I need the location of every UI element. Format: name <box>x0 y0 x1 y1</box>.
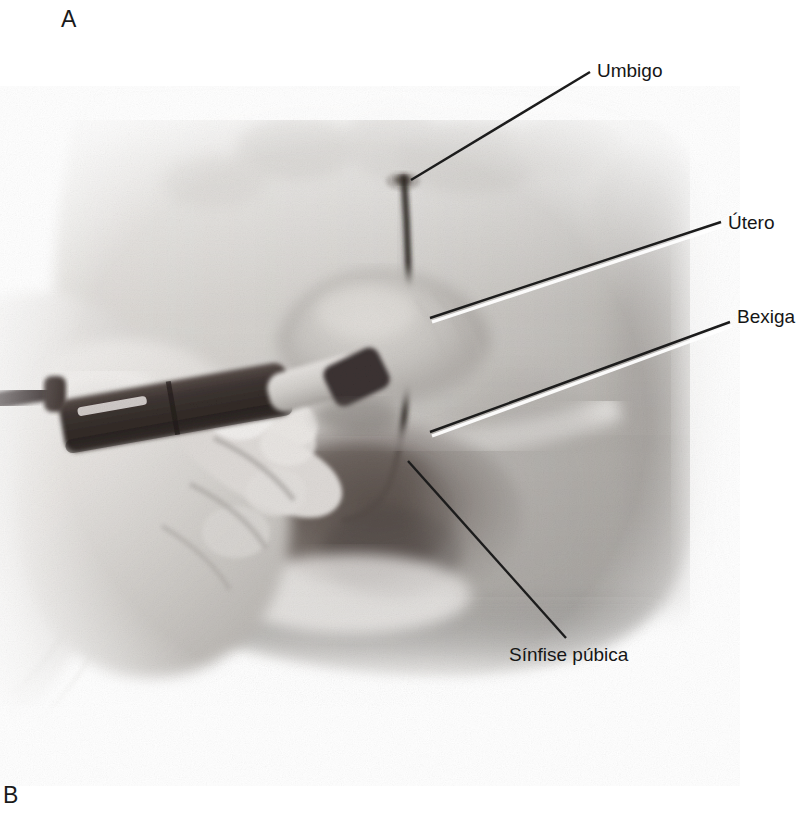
annotation-label-umbigo: Umbigo <box>597 61 662 80</box>
annotation-label-bexiga: Bexiga <box>737 307 795 326</box>
panel-a-photograph <box>0 86 740 786</box>
photograph-svg <box>0 86 740 786</box>
annotation-label-sinfise-pubica: Sínfise púbica <box>509 645 628 664</box>
photo-vignette <box>0 86 740 786</box>
figure-page: A <box>0 0 803 814</box>
panel-b-letter: B <box>3 784 19 807</box>
annotation-label-utero: Útero <box>728 213 774 232</box>
panel-a-letter: A <box>61 8 77 31</box>
